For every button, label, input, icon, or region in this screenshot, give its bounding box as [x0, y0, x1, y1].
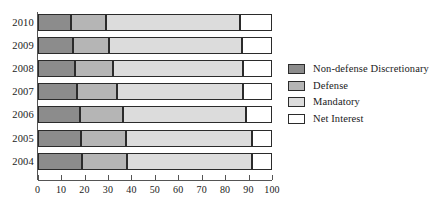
bar-segment [81, 130, 126, 147]
x-tick-label: 80 [212, 184, 238, 195]
bar-row: 2005 [0, 129, 290, 148]
bar-segment [38, 37, 73, 54]
legend-item[interactable]: Non-defense Discretionary [286, 62, 442, 76]
bar-segment [38, 60, 75, 77]
x-tick-mark [108, 175, 109, 180]
legend-swatch-icon [288, 114, 305, 124]
bar-segment [38, 83, 77, 100]
bar-segment [109, 37, 242, 54]
stacked-bar [38, 60, 272, 77]
bar-segment [117, 83, 244, 100]
bar-segment [38, 14, 71, 31]
x-tick-mark [131, 175, 132, 180]
bar-segment [243, 83, 272, 100]
bar-segment [123, 106, 246, 123]
stacked-bar [38, 37, 272, 54]
x-axis: 0102030405060708090100 [0, 180, 290, 209]
bar-segment [113, 60, 242, 77]
stacked-bar [38, 106, 272, 123]
x-tick-label: 0 [25, 184, 51, 195]
x-tick-label: 20 [72, 184, 98, 195]
bar-segment [80, 106, 123, 123]
bar-row: 2004 [0, 152, 290, 171]
legend-item[interactable]: Mandatory [286, 95, 442, 109]
stacked-bar [38, 83, 272, 100]
bar-year-label: 2010 [2, 13, 34, 32]
bar-segment [246, 106, 272, 123]
bar-segment [106, 14, 240, 31]
legend-swatch-icon [288, 81, 305, 91]
bar-segment [38, 130, 81, 147]
bar-segment [38, 153, 83, 170]
bar-segment [82, 153, 127, 170]
bar-segment [127, 153, 252, 170]
legend-label: Non-defense Discretionary [313, 62, 429, 76]
legend-label: Net Interest [313, 112, 363, 126]
stacked-bar-chart: 2010200920082007200620052004 01020304050… [0, 0, 444, 209]
x-tick-label: 40 [118, 184, 144, 195]
x-axis-line [38, 180, 272, 181]
stacked-bar [38, 153, 272, 170]
bar-segment [242, 37, 272, 54]
x-tick-label: 90 [236, 184, 262, 195]
bar-row: 2009 [0, 36, 290, 55]
bar-segment [126, 130, 252, 147]
bar-segment [71, 14, 106, 31]
chart-legend: Non-defense DiscretionaryDefenseMandator… [286, 62, 442, 128]
bar-year-label: 2007 [2, 82, 34, 101]
bar-segment [252, 153, 272, 170]
bar-row: 2007 [0, 82, 290, 101]
bar-segment [73, 37, 109, 54]
x-tick-mark [85, 175, 86, 180]
bar-segment [75, 60, 113, 77]
x-tick-label: 100 [259, 184, 285, 195]
x-tick-mark [249, 175, 250, 180]
bar-year-label: 2006 [2, 105, 34, 124]
legend-item[interactable]: Net Interest [286, 112, 442, 126]
x-tick-mark [61, 175, 62, 180]
stacked-bar [38, 14, 272, 31]
legend-label: Mandatory [313, 95, 360, 109]
x-tick-mark [225, 175, 226, 180]
x-tick-label: 70 [189, 184, 215, 195]
bar-year-label: 2009 [2, 36, 34, 55]
x-tick-label: 50 [142, 184, 168, 195]
x-tick-mark [178, 175, 179, 180]
bar-year-label: 2008 [2, 59, 34, 78]
legend-item[interactable]: Defense [286, 79, 442, 93]
x-tick-label: 30 [95, 184, 121, 195]
plot-area: 2010200920082007200620052004 [0, 0, 290, 209]
legend-label: Defense [313, 79, 348, 93]
stacked-bar [38, 130, 272, 147]
bar-row: 2008 [0, 59, 290, 78]
bar-segment [38, 106, 80, 123]
x-tick-mark [155, 175, 156, 180]
x-tick-mark [272, 175, 273, 180]
x-tick-mark [202, 175, 203, 180]
bar-segment [243, 60, 272, 77]
bar-year-label: 2004 [2, 152, 34, 171]
legend-swatch-icon [288, 64, 305, 74]
bar-year-label: 2005 [2, 129, 34, 148]
legend-swatch-icon [288, 97, 305, 107]
x-tick-mark [38, 175, 39, 180]
bar-segment [252, 130, 272, 147]
x-tick-label: 10 [48, 184, 74, 195]
bar-row: 2010 [0, 13, 290, 32]
bar-row: 2006 [0, 105, 290, 124]
bar-segment [240, 14, 272, 31]
bar-segment [77, 83, 117, 100]
x-tick-label: 60 [165, 184, 191, 195]
